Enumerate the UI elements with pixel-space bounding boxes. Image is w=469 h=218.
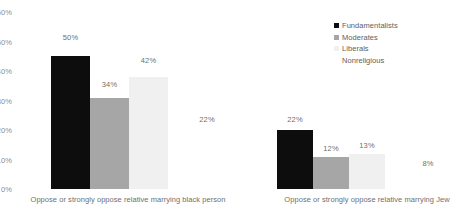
bar-liberals-group2 <box>349 154 385 189</box>
category-label-black-person: Oppose or strongly oppose relative marry… <box>31 195 226 204</box>
bar-value-label: 22% <box>287 115 302 124</box>
legend-item-nonreligious[interactable]: Nonreligious <box>334 55 398 66</box>
bar-value-label: 42% <box>141 56 156 65</box>
bar-moderates-group1 <box>90 98 129 189</box>
legend-item-fundamentalists[interactable]: Fundamentalists <box>334 20 398 31</box>
legend-swatch-icon <box>334 58 339 63</box>
legend: Fundamentalists Moderates Liberals Nonre… <box>334 20 398 66</box>
legend-swatch-icon <box>334 23 339 28</box>
bar-value-label: 34% <box>102 80 117 89</box>
legend-item-label: Moderates <box>342 33 378 42</box>
bar-value-label: 12% <box>323 144 338 153</box>
bar-value-label: 8% <box>422 159 433 168</box>
bar-fundamentalists-group2 <box>277 130 313 189</box>
bar-nonreligious-group2 <box>385 168 421 189</box>
bar-fundamentalists-group1 <box>51 56 90 189</box>
plot-area: 50% 34% 42% 22% 22% 12% 13% 8% <box>0 0 469 218</box>
legend-item-moderates[interactable]: Moderates <box>334 32 398 43</box>
bar-moderates-group2 <box>313 157 349 189</box>
bar-value-label: 13% <box>359 141 374 150</box>
legend-item-label: Liberals <box>342 44 369 53</box>
category-label-jew: Oppose or strongly oppose relative marry… <box>284 195 449 204</box>
bar-chart: 60% 50% 40% 30% 20% 10% 0% 50% 34% 42% 2… <box>0 0 469 218</box>
legend-item-label: Fundamentalists <box>342 21 398 30</box>
legend-swatch-icon <box>334 35 339 40</box>
legend-swatch-icon <box>334 46 339 51</box>
bar-value-label: 50% <box>63 33 78 42</box>
bar-value-label: 22% <box>199 115 214 124</box>
bar-liberals-group1 <box>129 77 168 189</box>
legend-item-liberals[interactable]: Liberals <box>334 43 398 54</box>
bar-nonreligious-group1 <box>168 130 207 189</box>
legend-item-label: Nonreligious <box>342 56 384 65</box>
